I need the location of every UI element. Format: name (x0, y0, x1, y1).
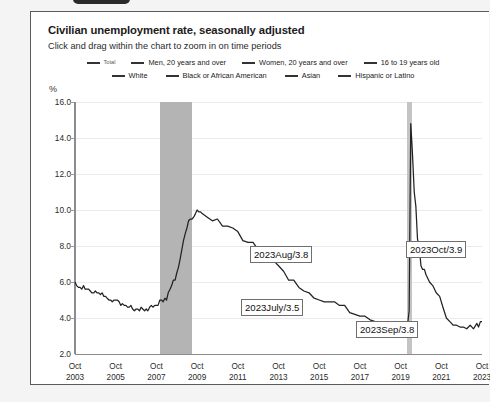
annot-2023aug: 2023Aug/3.8 (250, 246, 312, 263)
x-tick-label: Oct2021 (421, 361, 461, 383)
x-tick-label: Oct2011 (218, 361, 258, 383)
x-tick-label: Oct2007 (136, 361, 176, 383)
annot-2023sep: 2023Sep/3.8 (356, 321, 418, 338)
x-axis-line (75, 354, 482, 355)
annot-2023july: 2023July/3.5 (241, 299, 303, 316)
y-tick-label: 4.0 (37, 313, 71, 323)
gridline (75, 318, 482, 319)
chart-card: Civilian unemployment rate, seasonally a… (30, 11, 489, 385)
x-tick-label: Oct2013 (259, 361, 299, 383)
y-tick-label: 12.0 (37, 169, 71, 179)
screenshot-root: Civilian unemployment rate, seasonally a… (0, 0, 490, 402)
x-tick-label: Oct2017 (340, 361, 380, 383)
y-tick-label: 10.0 (37, 205, 71, 215)
x-tick-label: Oct2009 (177, 361, 217, 383)
y-tick-label: 16.0 (37, 97, 71, 107)
gridline (75, 210, 482, 211)
y-tick-label: 8.0 (37, 241, 71, 251)
chart-gridlines (75, 102, 482, 354)
y-axis-line (74, 102, 76, 354)
x-tick-label: Oct2003 (55, 361, 95, 383)
x-tick-label: Oct2019 (381, 361, 421, 383)
x-tick-label: Oct2005 (96, 361, 136, 383)
y-axis-tick-labels: 16.014.012.010.08.06.04.02.0 (31, 12, 71, 386)
recession-band (160, 102, 192, 354)
window-chrome-pill (73, 0, 130, 4)
y-tick-label: 2.0 (37, 349, 71, 359)
annot-2023oct: 2023Oct/3.9 (406, 241, 466, 258)
gridline (75, 282, 482, 283)
y-tick-label: 14.0 (37, 133, 71, 143)
recession-band (407, 102, 412, 354)
gridline (75, 174, 482, 175)
x-tick-label: Oct2023 (462, 361, 490, 383)
clipped-footer-text (300, 392, 480, 401)
chart-plot-area[interactable]: % 16.014.012.010.08.06.04.02.0 Oct2003Oc… (31, 12, 490, 386)
gridline (75, 138, 482, 139)
gridline (75, 102, 482, 103)
y-tick-label: 6.0 (37, 277, 71, 287)
x-tick-label: Oct2015 (299, 361, 339, 383)
